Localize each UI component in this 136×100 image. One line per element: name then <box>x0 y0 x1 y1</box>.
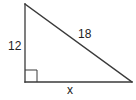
vertical-leg-label: 12 <box>8 40 21 52</box>
right-angle-marker <box>25 70 37 82</box>
horizontal-leg-label: x <box>67 84 73 96</box>
hypotenuse <box>25 4 132 82</box>
hypotenuse-label: 18 <box>78 28 91 40</box>
